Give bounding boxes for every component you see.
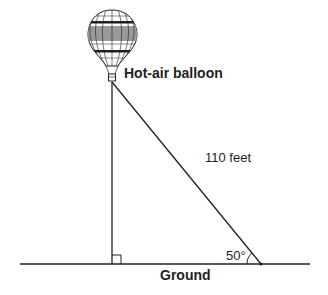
ground-label: Ground — [160, 268, 211, 282]
balloon-label: Hot-air balloon — [124, 66, 223, 80]
angle-label: 50° — [226, 249, 246, 262]
angle-arc — [247, 253, 252, 264]
tether-line — [112, 82, 261, 264]
hypotenuse-label: 110 feet — [205, 151, 251, 164]
right-angle-marker — [112, 255, 121, 264]
ground-point — [259, 262, 262, 265]
basket — [109, 74, 116, 81]
diagram-canvas — [0, 0, 328, 295]
